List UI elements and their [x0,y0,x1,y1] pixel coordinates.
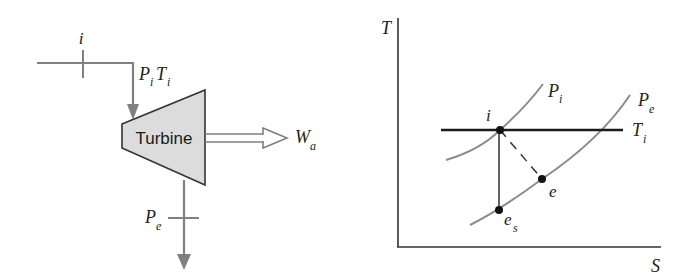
inlet-pipe [37,63,133,112]
svg-text:P: P [144,207,156,227]
ts-diagram: T S P i P e T i i e e s [381,18,661,276]
svg-text:i: i [167,75,170,89]
state-point-i-label: i [486,106,491,125]
svg-text:i: i [643,132,646,146]
svg-text:P: P [637,90,649,110]
isobar-pi-label: P i [547,81,562,106]
turbine-schematic: Turbine i P i T i W a P e [37,29,316,270]
isobar-pe-label: P e [637,90,655,116]
inlet-state-label: i [79,29,84,48]
s-axis-label: S [651,256,660,276]
isobar-pe [470,95,630,225]
isobar-pi [446,84,543,160]
exit-arrow-icon [177,254,191,270]
isotherm-ti-label: T i [632,120,646,146]
state-point-e [538,175,546,183]
state-point-e-label: e [549,182,557,201]
svg-text:e: e [649,102,655,116]
svg-text:i: i [559,92,562,106]
inlet-conditions-label: P i T i [138,64,170,89]
svg-text:i: i [150,75,153,89]
svg-text:e: e [504,210,512,229]
work-arrow-icon [263,128,287,148]
exit-pressure-label: P e [144,207,162,233]
state-point-es [495,206,503,214]
svg-text:e: e [156,219,162,233]
svg-text:a: a [310,139,316,153]
state-point-es-label: e s [504,210,518,235]
svg-text:P: P [547,81,559,101]
svg-text:s: s [513,221,518,235]
actual-process-line [500,130,542,179]
diagram-canvas: Turbine i P i T i W a P e T S [0,0,683,276]
t-axis-label: T [381,18,393,38]
turbine-label: Turbine [135,129,192,148]
svg-text:P: P [138,64,150,84]
state-point-i [496,126,504,134]
work-label: W a [295,127,316,153]
